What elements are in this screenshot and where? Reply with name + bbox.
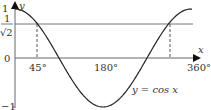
x-tick-label-180: 180°: [94, 62, 118, 73]
y-tick-label-minus-1: −1: [1, 101, 16, 110]
y-special-numerator: 1: [4, 13, 10, 24]
y-axis-arrow-icon: [11, 1, 19, 9]
x-axis-label: x: [198, 44, 204, 55]
cosine-graph: y 1 1 √2 0 −1 45° 180° 360° x y = cos x: [0, 0, 211, 110]
y-tick-label-0: 0: [4, 53, 10, 64]
y-special-denominator: √2: [0, 27, 13, 38]
x-axis-arrow-icon: [193, 54, 201, 62]
x-tick-label-45: 45°: [29, 62, 47, 73]
x-tick-label-360: 360°: [187, 62, 211, 73]
function-label: y = cos x: [131, 84, 178, 95]
y-axis-label: y: [18, 0, 25, 11]
